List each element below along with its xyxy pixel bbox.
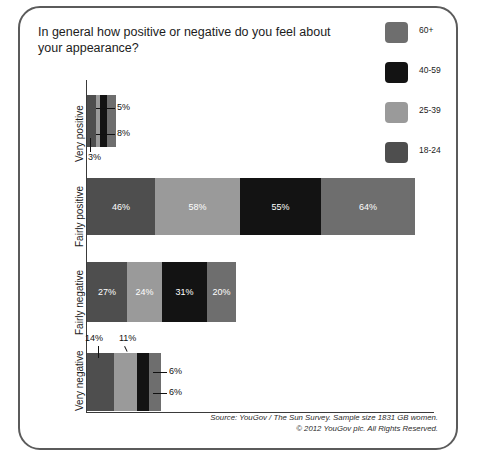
- legend-swatch-60plus: [385, 22, 408, 43]
- bar-segment-very-positive-40-59[interactable]: [100, 95, 107, 147]
- category-label-fairly-positive: Fairly positive: [74, 186, 85, 247]
- bar-segment-very-negative-25-39[interactable]: [114, 353, 137, 411]
- bar-segment-fairly-negative-60plus[interactable]: 20%: [207, 262, 236, 322]
- callout-very-positive-40-59: 5%: [117, 102, 130, 112]
- bar-group-fairly-positive: 46% 58% 55% 64%: [87, 178, 435, 235]
- bar-segment-fairly-positive-25-39[interactable]: 58%: [155, 178, 240, 235]
- leader-line-very-positive-3: [90, 138, 91, 152]
- plot-area: Very positive Fairly positive Fairly neg…: [66, 70, 438, 408]
- bar-segment-very-negative-40-59[interactable]: [137, 353, 149, 411]
- bar-segment-fairly-positive-40-59[interactable]: 55%: [240, 178, 321, 235]
- chart-card: In general how positive or negative do y…: [18, 6, 458, 450]
- bar-segment-fairly-negative-25-39[interactable]: 24%: [127, 262, 162, 322]
- bar-value-fairly-negative-60plus: 20%: [207, 287, 236, 297]
- bar-group-very-positive: [87, 95, 435, 147]
- legend-label-60plus: 60+: [419, 25, 433, 35]
- leader-line-very-negative-6b: [153, 393, 167, 394]
- bar-stack-very-negative: [87, 353, 161, 411]
- bar-segment-fairly-negative-18-24[interactable]: 27%: [87, 262, 127, 322]
- callout-very-negative-60plus: 6%: [169, 387, 182, 397]
- bar-group-fairly-negative: 27% 24% 31% 20%: [87, 262, 435, 322]
- chart-title: In general how positive or negative do y…: [38, 24, 338, 56]
- leader-line-very-positive-5: [96, 108, 115, 109]
- bar-value-fairly-negative-25-39: 24%: [127, 287, 162, 297]
- callout-very-negative-25-39: 11%: [119, 333, 136, 343]
- leader-line-very-negative-6a: [153, 372, 167, 373]
- bar-stack-fairly-negative: 27% 24% 31% 20%: [87, 262, 236, 322]
- leader-line-very-negative-14: [98, 346, 99, 358]
- bar-segment-fairly-positive-60plus[interactable]: 64%: [321, 178, 415, 235]
- bar-segment-fairly-negative-40-59[interactable]: 31%: [162, 262, 207, 322]
- bar-segment-very-negative-18-24[interactable]: [87, 353, 114, 411]
- footer-copyright: © 2012 YouGov plc. All Rights Reserved.: [210, 423, 438, 434]
- bar-stack-very-positive: [87, 95, 116, 147]
- callout-very-negative-18-24: 14%: [85, 333, 103, 343]
- bar-segment-very-negative-60plus[interactable]: [149, 353, 161, 411]
- category-label-very-negative: Very negative: [74, 350, 85, 411]
- bar-stack-fairly-positive: 46% 58% 55% 64%: [87, 178, 415, 235]
- bar-value-fairly-negative-18-24: 27%: [87, 287, 127, 297]
- bar-value-fairly-positive-18-24: 46%: [87, 202, 155, 212]
- footer-source: Source: YouGov / The Sun Survey. Sample …: [210, 412, 438, 423]
- bar-segment-very-positive-60plus[interactable]: [107, 95, 116, 147]
- footer: Source: YouGov / The Sun Survey. Sample …: [210, 412, 438, 434]
- bar-segment-fairly-positive-18-24[interactable]: 46%: [87, 178, 155, 235]
- leader-line-very-positive-8: [96, 134, 115, 135]
- category-label-fairly-negative: Fairly negative: [74, 270, 85, 335]
- bar-value-fairly-positive-40-59: 55%: [240, 202, 321, 212]
- bar-group-very-negative: [87, 353, 435, 411]
- leader-line-very-negative-11: [124, 346, 128, 352]
- bar-segment-very-positive-18-24[interactable]: [87, 95, 96, 147]
- callout-very-positive-25-39: 8%: [117, 128, 130, 138]
- bar-value-fairly-negative-40-59: 31%: [162, 287, 207, 297]
- bar-value-fairly-positive-25-39: 58%: [155, 202, 240, 212]
- bar-value-fairly-positive-60plus: 64%: [321, 202, 415, 212]
- legend-item-60plus[interactable]: 60+: [385, 20, 477, 60]
- callout-very-positive-18-24: 3%: [88, 152, 101, 162]
- callout-very-negative-40-59: 6%: [169, 366, 182, 376]
- category-label-very-positive: Very positive: [74, 105, 85, 162]
